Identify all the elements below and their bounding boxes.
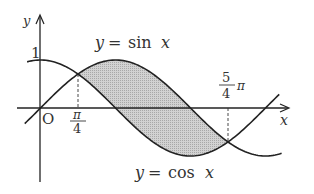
y-tick-1-label: 1 (31, 44, 41, 62)
svg-text:x: x (205, 163, 214, 182)
sin-curve-label: y = sin x (94, 33, 170, 52)
origin-label: O (42, 110, 54, 128)
svg-text:y: y (134, 163, 145, 182)
five-pi-over-4-pi: π (236, 79, 246, 93)
svg-text:sin: sin (128, 33, 152, 52)
svg-text:y: y (94, 33, 105, 52)
pi-over-4-denominator: 4 (73, 121, 81, 136)
x-axis-label: x (280, 112, 288, 128)
svg-text:=: = (148, 163, 161, 182)
sin-cos-area-diagram: y 1 O x π 4 5 4 π y = sin x y = cos x (0, 0, 314, 194)
y-axis-label: y (22, 13, 31, 28)
svg-text:cos: cos (168, 163, 195, 182)
svg-text:=: = (108, 33, 121, 52)
svg-text:x: x (161, 33, 170, 52)
five-pi-over-4-numerator: 5 (222, 70, 230, 85)
cos-curve-label: y = cos x (134, 163, 214, 182)
pi-over-4-numerator: π (72, 108, 82, 122)
five-pi-over-4-denominator: 4 (222, 86, 230, 101)
